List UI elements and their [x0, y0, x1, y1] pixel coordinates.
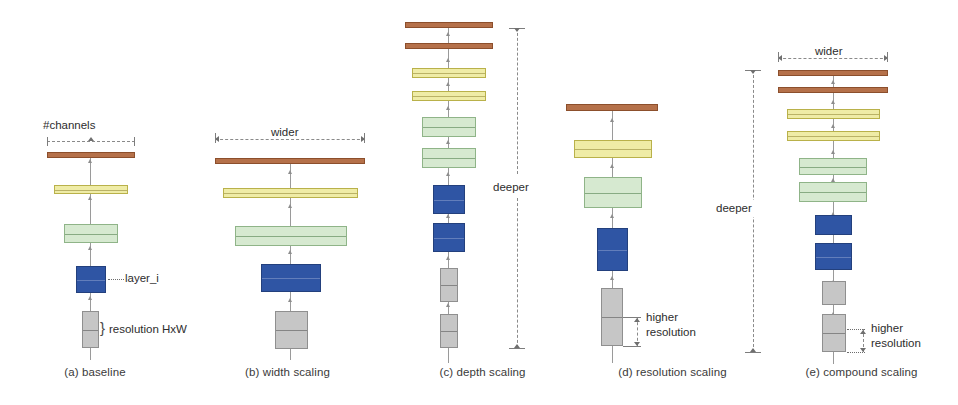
resolution-guide-caret-bottom: [634, 342, 640, 346]
panel-depth-scaling: deeper (c) depth scaling: [385, 0, 580, 405]
resolution-guide-caret-bottom: [860, 348, 866, 352]
deeper-guide-tick-bottom: [745, 352, 761, 353]
layer-block-blue: [815, 215, 852, 235]
resolution-guide-tick-bottom: [623, 346, 641, 347]
deeper-guide-line-lower: [517, 198, 518, 348]
wider-guide-tick-left: [778, 52, 779, 62]
spine-arrow: [610, 276, 614, 280]
wider-guide-tick-right: [364, 133, 365, 143]
layer-block-green: [799, 182, 867, 202]
spine-arrow: [446, 32, 450, 36]
spine-arrow: [88, 246, 92, 250]
layer-block-yellow: [412, 91, 486, 101]
panel-width-scaling: wider (b) width scaling: [190, 0, 385, 405]
layer-block-yellow: [412, 68, 486, 78]
spine-arrow: [446, 256, 450, 260]
spine-arrow: [288, 298, 292, 302]
spine-arrow: [288, 250, 292, 254]
layer-block-gray: [82, 311, 99, 348]
wider-guide-tick-left: [215, 133, 216, 143]
channels-guide-tick-right: [134, 137, 135, 146]
spine-arrow: [446, 58, 450, 62]
spine-arrow: [831, 100, 835, 104]
layer-block-green: [235, 226, 347, 246]
spine-arrow: [831, 124, 835, 128]
spine-arrow: [88, 296, 92, 300]
resolution-label: resolution HxW: [109, 323, 187, 336]
deeper-label: deeper: [713, 200, 755, 217]
layer-block-gray: [275, 311, 308, 349]
layer-block-green: [422, 117, 476, 137]
spine-arrow: [446, 214, 450, 218]
layer-block-gray: [440, 268, 458, 302]
spine-arrow: [831, 80, 835, 84]
resolution-guide-caret-top: [634, 318, 640, 322]
channels-guide-caret: [88, 137, 94, 141]
panel-caption-depth-scaling: (c) depth scaling: [385, 366, 580, 378]
wider-guide-tick-right: [887, 52, 888, 62]
layer-block-green: [584, 177, 642, 208]
spine-arrow: [610, 164, 614, 168]
layer-block-gray: [440, 314, 458, 348]
resolution-label: resolution: [871, 337, 921, 350]
layer-block-green: [64, 224, 118, 243]
layer-block-blue: [815, 243, 852, 270]
spine-arrow: [446, 82, 450, 86]
layer-block-brown: [566, 104, 658, 111]
panel-compound-scaling: wider deeper higher resolution (e) compo…: [765, 0, 958, 405]
layer-block-green: [422, 148, 476, 168]
spine-arrow: [610, 214, 614, 218]
spine-arrow: [88, 196, 92, 200]
higher-label: higher: [871, 322, 903, 335]
layer-label-leader: [108, 279, 124, 280]
layer-block-yellow: [223, 188, 358, 198]
spine-arrow: [288, 170, 292, 174]
layer-block-brown: [778, 87, 888, 93]
spine-arrow: [446, 106, 450, 110]
layer-block-brown: [405, 22, 493, 28]
higher-label: higher: [646, 311, 678, 324]
layer-block-blue: [76, 266, 106, 293]
spine-arrow: [610, 118, 614, 122]
channels-label: #channels: [43, 119, 95, 132]
deeper-guide-caret-top: [750, 70, 756, 74]
layer-label: layer_i: [125, 272, 159, 285]
deeper-guide-caret-bottom: [514, 344, 520, 348]
layer-block-blue: [433, 185, 465, 214]
resolution-guide-caret-top: [860, 330, 866, 334]
spine-arrow: [831, 150, 835, 154]
layer-block-yellow: [787, 109, 880, 119]
layer-block-blue: [261, 264, 321, 292]
spine-arrow: [446, 303, 450, 307]
layer-block-yellow: [54, 185, 128, 194]
layer-block-brown: [405, 43, 493, 49]
layer-block-gray: [601, 288, 623, 346]
panel-caption-compound-scaling: (e) compound scaling: [765, 366, 958, 378]
layer-block-gray: [822, 281, 846, 305]
wider-label: wider: [811, 45, 846, 58]
panel-caption-baseline: (a) baseline: [0, 366, 190, 378]
panel-baseline: #channels layer_i } resolution HxW (a) b…: [0, 0, 190, 405]
deeper-guide-caret-top: [514, 28, 520, 32]
layer-block-brown: [215, 158, 365, 164]
layer-block-brown: [778, 70, 888, 76]
layer-block-yellow: [787, 131, 880, 141]
deeper-label: deeper: [490, 179, 532, 196]
wider-guide-line: [778, 58, 888, 59]
deeper-guide-caret-bottom: [750, 348, 756, 352]
model-scaling-figure: #channels layer_i } resolution HxW (a) b…: [0, 0, 958, 405]
spine-arrow: [88, 159, 92, 163]
spine-arrow: [446, 140, 450, 144]
layer-block-blue: [597, 228, 628, 271]
resolution-brace: }: [100, 322, 105, 333]
layer-block-blue: [433, 223, 465, 252]
wider-label: wider: [267, 126, 302, 139]
layer-block-yellow: [574, 140, 652, 158]
layer-block-gray: [822, 314, 846, 352]
spine-arrow: [288, 204, 292, 208]
layer-block-green: [799, 158, 867, 175]
channels-guide-line: [47, 141, 135, 142]
channels-guide-tick-left: [47, 137, 48, 146]
wider-guide-line: [215, 139, 365, 140]
panel-caption-resolution-scaling: (d) resolution scaling: [580, 366, 765, 378]
